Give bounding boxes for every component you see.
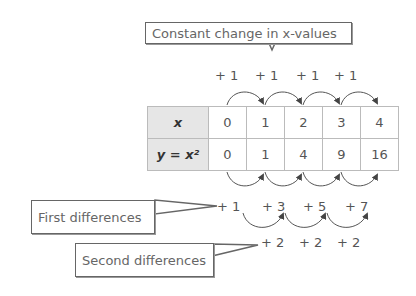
table-row-y: y = x² 0 1 4 9 16 xyxy=(148,139,399,171)
first-diff: + 7 xyxy=(345,199,368,214)
first-diff: + 1 xyxy=(217,199,240,214)
second-diff: + 2 xyxy=(261,235,284,250)
row-header-x: x xyxy=(148,107,209,139)
second-diff: + 2 xyxy=(299,235,322,250)
top-diff: + 1 xyxy=(296,68,319,83)
y-cell: 9 xyxy=(323,139,361,171)
y-cell: 0 xyxy=(209,139,247,171)
x-cell: 1 xyxy=(247,107,285,139)
x-cell: 0 xyxy=(209,107,247,139)
top-diff: + 1 xyxy=(215,68,238,83)
first-diff: + 3 xyxy=(262,199,285,214)
x-cell: 4 xyxy=(361,107,399,139)
y-cell: 4 xyxy=(285,139,323,171)
x-cell: 2 xyxy=(285,107,323,139)
table-row-x: x 0 1 2 3 4 xyxy=(148,107,399,139)
first-diff: + 5 xyxy=(303,199,326,214)
callout-first-differences: First differences xyxy=(31,200,155,234)
top-diff: + 1 xyxy=(334,68,357,83)
row-header-y: y = x² xyxy=(148,139,209,171)
y-cell: 16 xyxy=(361,139,399,171)
y-cell: 1 xyxy=(247,139,285,171)
x-cell: 3 xyxy=(323,107,361,139)
callout-constant-change: Constant change in x-values xyxy=(145,22,352,44)
values-table: x 0 1 2 3 4 y = x² 0 1 4 9 16 xyxy=(147,106,399,171)
second-diff: + 2 xyxy=(337,235,360,250)
top-diff: + 1 xyxy=(255,68,278,83)
callout-second-differences: Second differences xyxy=(75,243,214,277)
